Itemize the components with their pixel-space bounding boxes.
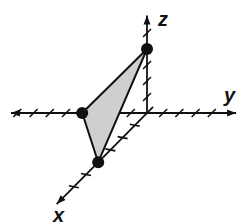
y-axis-positive-arrow: [227, 110, 236, 117]
x-axis-label: x: [52, 204, 65, 224]
x-axis-tick: [130, 124, 140, 126]
y-axis-label: y: [223, 84, 236, 106]
x-axis-tick: [118, 137, 128, 139]
z-axis-arrow: [144, 15, 151, 24]
y-intercept-point: [76, 107, 88, 119]
x-axis-tick: [69, 186, 79, 188]
coordinate-diagram: x y z: [0, 0, 239, 224]
x-axis-tick: [105, 149, 115, 151]
x-intercept-point: [92, 156, 104, 168]
z-axis-label: z: [157, 8, 168, 30]
z-intercept-point: [141, 43, 153, 55]
x-axis-tick: [81, 174, 91, 176]
